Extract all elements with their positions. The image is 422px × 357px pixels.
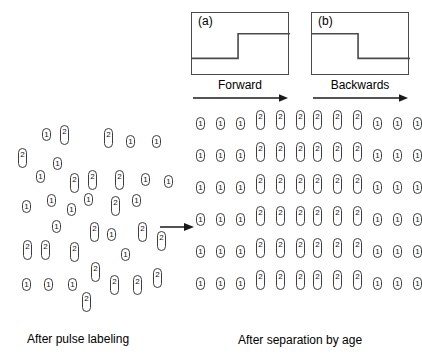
capsule-label: 2 (277, 241, 284, 249)
capsule-2: 2 (333, 110, 342, 130)
capsule-label: 2 (297, 209, 304, 217)
step-function-box-a: (a) (191, 12, 289, 75)
capsule-label: 1 (217, 120, 224, 128)
capsule-1: 1 (393, 117, 402, 130)
capsule-2: 2 (313, 206, 322, 226)
capsule-label: 2 (334, 209, 341, 217)
capsule-label: 2 (24, 243, 31, 251)
capsule-1: 1 (216, 149, 225, 162)
capsule-1: 1 (196, 245, 205, 258)
capsule-label: 1 (45, 281, 52, 289)
capsule-1: 1 (373, 181, 382, 194)
capsule-label: 1 (127, 138, 134, 146)
capsule-2: 2 (353, 270, 362, 290)
capsule-1: 1 (413, 277, 422, 290)
capsule-2: 2 (60, 125, 69, 145)
capsule-1: 1 (67, 203, 76, 216)
capsule-1: 1 (42, 128, 51, 141)
capsule-2: 2 (256, 238, 265, 258)
capsule-2: 2 (333, 142, 342, 162)
capsule-2: 2 (256, 206, 265, 226)
capsule-label: 1 (414, 152, 421, 160)
capsule-label: 2 (154, 271, 161, 279)
capsule-label: 2 (314, 273, 321, 281)
capsule-label: 1 (237, 248, 244, 256)
step-trace (312, 34, 410, 59)
capsule-label: 1 (68, 206, 75, 214)
capsule-label: 2 (314, 209, 321, 217)
capsule-2: 2 (353, 206, 362, 226)
figure-caption: After pulse labeling (27, 332, 129, 346)
capsule-1: 1 (84, 193, 93, 206)
capsule-1: 1 (393, 245, 402, 258)
capsule-2: 2 (353, 174, 362, 194)
capsule-label: 1 (374, 280, 381, 288)
capsule-1: 1 (196, 117, 205, 130)
figure-caption: After separation by age (238, 333, 362, 347)
capsule-label: 2 (314, 241, 321, 249)
figure-canvas: (a)Forward111222111222111222111222111222… (0, 0, 422, 357)
direction-label: Backwards (311, 78, 409, 92)
capsule-label: 1 (153, 138, 160, 146)
capsule-1: 1 (393, 149, 402, 162)
capsule-2: 2 (133, 275, 142, 295)
capsule-label: 1 (142, 176, 149, 184)
capsule-1: 1 (52, 220, 61, 233)
capsule-label: 1 (374, 152, 381, 160)
capsule-label: 2 (71, 245, 78, 253)
capsule-label: 1 (197, 184, 204, 192)
capsule-1: 1 (152, 135, 161, 148)
capsule-label: 2 (334, 177, 341, 185)
capsule-label: 2 (277, 177, 284, 185)
capsule-2: 2 (276, 270, 285, 290)
capsule-1: 1 (216, 213, 225, 226)
capsule-label: 1 (414, 280, 421, 288)
capsule-2: 2 (313, 110, 322, 130)
capsule-label: 2 (334, 241, 341, 249)
capsule-1: 1 (236, 213, 245, 226)
step-function-box-b: (b) (311, 12, 409, 75)
capsule-label: 2 (257, 145, 264, 153)
capsule-label: 1 (48, 197, 55, 205)
capsule-1: 1 (126, 135, 135, 148)
capsule-label: 1 (133, 197, 140, 205)
transition-arrow (160, 222, 194, 232)
capsule-2: 2 (90, 222, 99, 242)
capsule-1: 1 (236, 245, 245, 258)
capsule-label: 2 (354, 145, 361, 153)
capsule-label: 1 (217, 184, 224, 192)
direction-arrow (313, 93, 408, 103)
capsule-label: 1 (217, 280, 224, 288)
capsule-1: 1 (196, 213, 205, 226)
direction-arrow (193, 93, 288, 103)
capsule-2: 2 (111, 196, 120, 216)
capsule-label: 1 (394, 248, 401, 256)
capsule-label: 2 (334, 273, 341, 281)
capsule-2: 2 (110, 275, 119, 295)
capsule-label: 2 (19, 151, 26, 159)
capsule-2: 2 (276, 238, 285, 258)
capsule-label: 2 (297, 273, 304, 281)
capsule-1: 1 (53, 157, 62, 170)
capsule-1: 1 (413, 117, 422, 130)
capsule-label: 2 (354, 177, 361, 185)
capsule-2: 2 (256, 142, 265, 162)
capsule-label: 2 (257, 113, 264, 121)
capsule-label: 2 (257, 209, 264, 217)
capsule-label: 1 (394, 152, 401, 160)
capsule-label: 1 (217, 216, 224, 224)
capsule-label: 2 (297, 145, 304, 153)
capsule-1: 1 (196, 149, 205, 162)
capsule-2: 2 (18, 148, 27, 168)
capsule-2: 2 (353, 238, 362, 258)
capsule-1: 1 (216, 181, 225, 194)
capsule-label: 1 (53, 223, 60, 231)
capsule-label: 2 (158, 234, 165, 242)
capsule-label: 2 (297, 113, 304, 121)
capsule-label: 2 (111, 278, 118, 286)
capsule-2: 2 (296, 142, 305, 162)
capsule-label: 2 (139, 225, 146, 233)
capsule-2: 2 (256, 110, 265, 130)
capsule-2: 2 (115, 170, 124, 190)
capsule-2: 2 (333, 270, 342, 290)
